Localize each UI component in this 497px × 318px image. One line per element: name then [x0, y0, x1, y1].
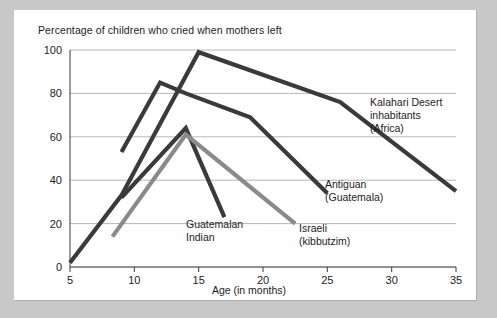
x-tick-label-10: 10: [128, 274, 140, 286]
annotation-antiguan: Antiguan(Guatemala): [325, 178, 383, 203]
y-tick-label-60: 60: [50, 131, 62, 143]
y-tick-label-40: 40: [50, 174, 62, 186]
x-tick-label-5: 5: [67, 274, 73, 286]
annotation-kalahari-line-0: Kalahari Desert: [370, 96, 442, 108]
chart-figure: Percentage of children who cried when mo…: [14, 10, 476, 300]
annotation-kalahari-line-1: inhabitants: [370, 109, 421, 121]
gridlines: [70, 50, 456, 267]
series-line-0: [70, 52, 456, 262]
series-annotations: Kalahari Desertinhabitants(Africa)Antigu…: [186, 96, 442, 247]
annotation-antiguan-line-1: (Guatemala): [325, 191, 383, 203]
annotation-israeli-line-1: (kibbutzim): [299, 235, 350, 247]
axes: [70, 50, 456, 272]
plot-area: 020406080100 5101520253035 Kalahari Dese…: [14, 10, 476, 300]
y-tick-label-0: 0: [56, 261, 62, 273]
x-axis-title: Age (in months): [212, 284, 286, 296]
annotation-antiguan-line-0: Antiguan: [325, 178, 367, 190]
annotation-guatemalan-line-1: Indian: [186, 231, 215, 243]
annotation-guatemalan-line-0: Guatemalan: [186, 218, 243, 230]
chart-svg: 020406080100 5101520253035 Kalahari Dese…: [14, 10, 476, 300]
x-tick-label-15: 15: [193, 274, 205, 286]
annotation-israeli: Israeli(kibbutzim): [299, 222, 350, 247]
y-axis-tick-labels: 020406080100: [44, 44, 62, 273]
x-tick-label-25: 25: [321, 274, 333, 286]
y-tick-label-100: 100: [44, 44, 62, 56]
series-lines: [70, 52, 456, 262]
x-tick-label-35: 35: [450, 274, 462, 286]
annotation-kalahari: Kalahari Desertinhabitants(Africa): [370, 96, 442, 134]
annotation-kalahari-line-2: (Africa): [370, 122, 404, 134]
annotation-guatemalan: GuatemalanIndian: [186, 218, 243, 243]
annotation-israeli-line-0: Israeli: [299, 222, 327, 234]
x-tick-label-30: 30: [386, 274, 398, 286]
y-tick-label-80: 80: [50, 87, 62, 99]
y-tick-label-20: 20: [50, 218, 62, 230]
